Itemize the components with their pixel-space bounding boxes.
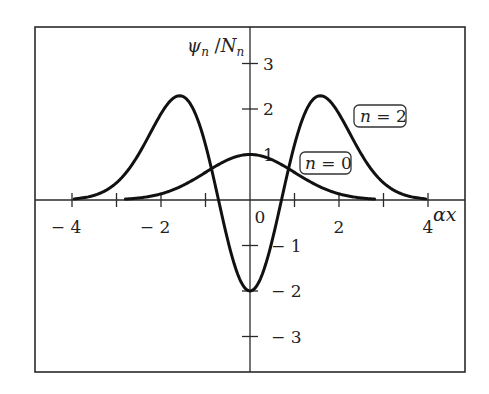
y-tick-label: 2 bbox=[263, 99, 274, 119]
x-tick-label: − 2 bbox=[140, 217, 170, 237]
legend-n0: n = 0 bbox=[300, 152, 352, 174]
legend-n2-label: n = 2 bbox=[360, 106, 407, 126]
x-tick-label: 4 bbox=[423, 217, 434, 237]
y-tick-label: − 2 bbox=[271, 281, 301, 301]
x-tick-label: 0 bbox=[255, 207, 266, 227]
wavefunction-chart: − 4− 2024 321− 1− 2− 3 ψn /Nn αx n = 2 n… bbox=[0, 0, 489, 394]
y-tick-label: − 3 bbox=[271, 327, 301, 347]
x-axis-label: αx bbox=[433, 203, 457, 225]
x-tick-label: 2 bbox=[334, 217, 345, 237]
x-tick-label: − 4 bbox=[51, 217, 81, 237]
y-tick-label: 1 bbox=[263, 145, 274, 165]
legend-n0-label: n = 0 bbox=[305, 153, 352, 173]
y-tick-label: 3 bbox=[263, 54, 274, 74]
y-tick-label: − 1 bbox=[271, 236, 301, 256]
x-axis-tick-labels: − 4− 2024 bbox=[51, 207, 434, 237]
y-axis-label: ψn /Nn bbox=[187, 35, 244, 59]
legend-n2: n = 2 bbox=[354, 105, 407, 127]
